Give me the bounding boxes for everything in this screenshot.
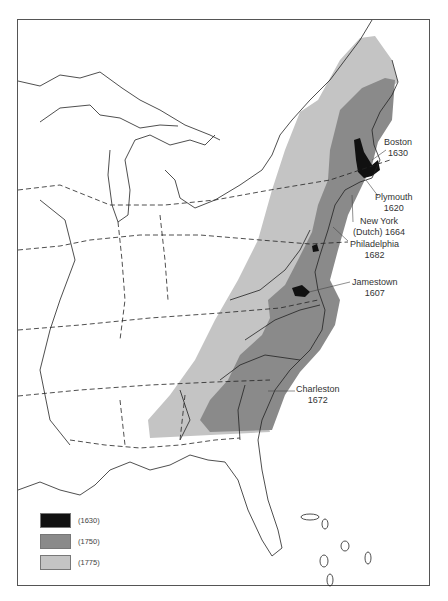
label-jamestown: Jamestown 1607 xyxy=(352,277,398,299)
label-new-york-detail: (Dutch) 1664 xyxy=(353,227,405,238)
label-philadelphia-year: 1682 xyxy=(350,250,399,261)
label-jamestown-name: Jamestown xyxy=(352,277,398,288)
legend-item-1775: (1775) xyxy=(40,555,100,569)
label-charleston: Charleston 1672 xyxy=(296,384,340,406)
label-philadelphia-name: Philadelphia xyxy=(350,239,399,250)
label-charleston-year: 1672 xyxy=(296,395,340,406)
label-new-york-name: New York xyxy=(353,216,405,227)
label-jamestown-year: 1607 xyxy=(352,288,398,299)
legend-label-1630: (1630) xyxy=(78,516,100,525)
label-boston-name: Boston xyxy=(384,137,412,148)
legend-swatch-1630 xyxy=(40,513,71,528)
label-philadelphia: Philadelphia 1682 xyxy=(350,239,399,261)
label-plymouth: Plymouth 1620 xyxy=(375,192,413,214)
label-charleston-name: Charleston xyxy=(296,384,340,395)
legend-swatch-1750 xyxy=(40,534,71,549)
label-boston-year: 1630 xyxy=(384,148,412,159)
label-new-york-year: 1664 xyxy=(385,227,405,237)
legend-item-1630: (1630) xyxy=(40,513,100,527)
legend-label-1750: (1750) xyxy=(78,537,100,546)
legend: (1630) (1750) (1775) xyxy=(40,513,100,576)
map-canvas xyxy=(0,0,448,601)
label-plymouth-name: Plymouth xyxy=(375,192,413,203)
legend-label-1775: (1775) xyxy=(78,558,100,567)
label-new-york: New York (Dutch) 1664 xyxy=(353,216,405,238)
legend-swatch-1775 xyxy=(40,555,71,570)
legend-item-1750: (1750) xyxy=(40,534,100,548)
caribbean-islands xyxy=(301,514,371,586)
label-boston: Boston 1630 xyxy=(384,137,412,159)
label-new-york-qualifier: (Dutch) xyxy=(353,227,383,237)
label-plymouth-year: 1620 xyxy=(375,203,413,214)
